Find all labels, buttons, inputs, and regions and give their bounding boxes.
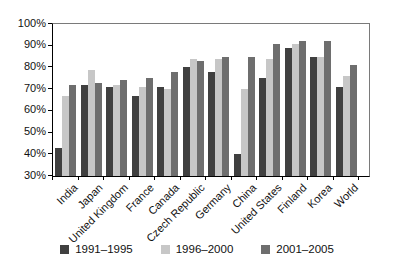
bar-1991-1995-india — [55, 148, 62, 176]
bar-1996-2000-france — [139, 87, 146, 176]
y-axis-label: 100% — [10, 18, 46, 29]
bar-1991-1995-japan — [81, 85, 88, 176]
y-axis-tick — [48, 45, 52, 46]
bar-1991-1995-world — [336, 87, 343, 176]
y-axis-label: 50% — [10, 126, 46, 137]
x-axis-tick — [256, 176, 257, 180]
bar-2001-2005-united-states — [273, 44, 280, 176]
bar-1991-1995-czech-republic — [183, 67, 190, 176]
y-axis-tick — [48, 66, 52, 67]
x-axis-tick — [129, 176, 130, 180]
x-axis-tick — [52, 176, 53, 180]
bar-1996-2000-world — [343, 76, 350, 176]
bar-2001-2005-finland — [299, 41, 306, 176]
y-axis-label: 40% — [10, 148, 46, 159]
bar-1991-1995-china — [234, 154, 241, 176]
bar-2001-2005-germany — [222, 57, 229, 176]
bar-1996-2000-canada — [164, 89, 171, 176]
bar-1996-2000-united-kingdom — [113, 85, 120, 176]
legend: 1991–19951996–20002001–2005 — [0, 243, 394, 255]
bar-1991-1995-germany — [208, 72, 215, 176]
y-axis-label: 90% — [10, 39, 46, 50]
y-axis-tick — [48, 110, 52, 111]
x-axis-tick — [333, 176, 334, 180]
legend-label: 1996–2000 — [176, 243, 234, 255]
bar-1996-2000-united-states — [266, 59, 273, 176]
bar-chart: 100%90%80%70%60%50%40%30% IndiaJapanUnit… — [0, 0, 394, 273]
bar-1996-2000-china — [241, 89, 248, 176]
legend-item: 2001–2005 — [261, 243, 334, 255]
x-axis-label-world: World — [332, 182, 360, 210]
bar-2001-2005-japan — [95, 83, 102, 176]
x-axis-tick — [307, 176, 308, 180]
x-axis-tick — [78, 176, 79, 180]
x-axis-label-korea: Korea — [306, 182, 335, 211]
bar-1996-2000-india — [62, 96, 69, 176]
legend-label: 1991–1995 — [75, 243, 133, 255]
y-axis-label: 60% — [10, 104, 46, 115]
bar-1996-2000-finland — [292, 44, 299, 176]
bar-2001-2005-france — [146, 78, 153, 176]
bar-1996-2000-korea — [317, 57, 324, 176]
x-axis-tick — [358, 176, 359, 180]
x-axis-tick — [205, 176, 206, 180]
bar-1991-1995-canada — [157, 87, 164, 176]
legend-item: 1991–1995 — [60, 243, 133, 255]
legend-label: 2001–2005 — [276, 243, 334, 255]
legend-swatch-icon — [60, 245, 69, 254]
bar-1996-2000-czech-republic — [190, 59, 197, 176]
bar-2001-2005-china — [248, 57, 255, 176]
bar-1991-1995-finland — [285, 48, 292, 176]
plot-area — [52, 23, 370, 177]
bar-1996-2000-germany — [215, 59, 222, 176]
bar-2001-2005-canada — [171, 72, 178, 176]
y-axis-tick — [48, 132, 52, 133]
bar-1991-1995-korea — [310, 57, 317, 176]
x-axis-tick — [282, 176, 283, 180]
x-axis-tick — [103, 176, 104, 180]
y-axis-label: 80% — [10, 61, 46, 72]
x-axis-tick — [231, 176, 232, 180]
bar-2001-2005-india — [69, 85, 76, 176]
x-axis-tick — [154, 176, 155, 180]
bar-2001-2005-world — [350, 65, 357, 176]
bar-1991-1995-united-kingdom — [106, 87, 113, 176]
bar-2001-2005-korea — [324, 41, 331, 176]
legend-swatch-icon — [261, 245, 270, 254]
y-axis-label: 30% — [10, 170, 46, 181]
y-axis-label: 70% — [10, 83, 46, 94]
y-axis-tick — [48, 153, 52, 154]
y-axis-tick — [48, 88, 52, 89]
bar-1991-1995-united-states — [259, 78, 266, 176]
legend-swatch-icon — [161, 245, 170, 254]
bar-1991-1995-france — [132, 96, 139, 176]
y-axis-tick — [48, 23, 52, 24]
legend-item: 1996–2000 — [161, 243, 234, 255]
bar-2001-2005-united-kingdom — [120, 80, 127, 176]
x-axis-tick — [180, 176, 181, 180]
bar-2001-2005-czech-republic — [197, 61, 204, 176]
bar-1996-2000-japan — [88, 70, 95, 176]
